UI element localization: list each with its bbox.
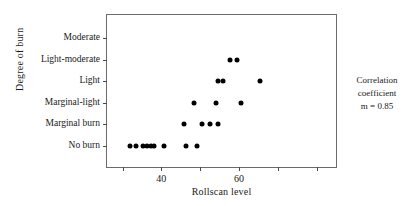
data-point — [213, 100, 218, 105]
data-point — [227, 57, 232, 62]
data-point — [184, 144, 189, 149]
annotation-line-2: coefficient — [346, 87, 408, 100]
x-axis-tick — [317, 167, 318, 171]
data-point — [192, 100, 197, 105]
y-axis-tick — [103, 81, 107, 82]
annotation-line-3: m = 0.85 — [346, 100, 408, 113]
x-axis-tick — [239, 167, 240, 171]
y-axis-tick-label: Moderate — [64, 33, 100, 43]
data-point — [162, 144, 167, 149]
data-point — [208, 122, 213, 127]
correlation-annotation: Correlation coefficient m = 0.85 — [346, 74, 408, 113]
x-axis-tick — [161, 167, 162, 171]
data-point — [181, 122, 186, 127]
data-point — [128, 144, 133, 149]
x-axis-tick — [123, 167, 124, 171]
data-point — [200, 122, 205, 127]
y-axis-title: Degree of burn — [14, 28, 25, 91]
x-axis-tick — [278, 167, 279, 171]
y-axis-tick-label: Marginal-light — [45, 98, 100, 108]
y-axis-tick-label: Light — [79, 76, 100, 86]
annotation-line-1: Correlation — [346, 74, 408, 87]
y-axis-tick — [103, 124, 107, 125]
y-axis-tick-label: Marginal burn — [46, 120, 100, 130]
y-axis-tick — [103, 146, 107, 147]
y-axis-tick-label: Light-moderate — [41, 55, 100, 65]
x-axis-tick-label: 40 — [156, 173, 166, 184]
x-axis-title: Rollscan level — [106, 186, 337, 197]
x-axis-tick — [200, 167, 201, 171]
data-point — [152, 144, 157, 149]
data-point — [216, 79, 221, 84]
data-point — [216, 122, 221, 127]
data-point — [195, 144, 200, 149]
data-point — [258, 79, 263, 84]
y-axis-tick — [103, 60, 107, 61]
plot-frame: ModerateLight-moderateLightMarginal-ligh… — [106, 14, 337, 168]
y-axis-tick — [103, 103, 107, 104]
plot-area: ModerateLight-moderateLightMarginal-ligh… — [107, 15, 336, 167]
x-axis-tick-label: 60 — [234, 173, 244, 184]
data-point — [134, 144, 139, 149]
data-point — [239, 100, 244, 105]
scatter-plot-figure: Degree of burn ModerateLight-moderateLig… — [0, 0, 411, 206]
data-point — [235, 57, 240, 62]
y-axis-tick-label: No burn — [69, 141, 100, 151]
y-axis-tick — [103, 38, 107, 39]
data-point — [221, 79, 226, 84]
